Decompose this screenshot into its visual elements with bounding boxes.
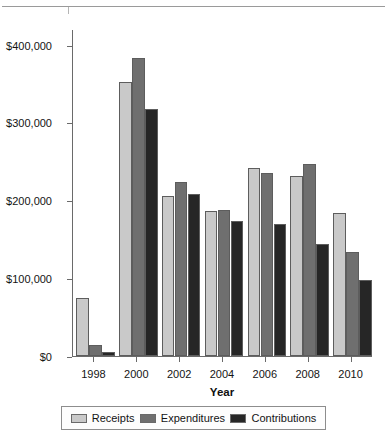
y-axis-tick-label: $200,000 bbox=[0, 196, 52, 207]
bar-receipts-2008 bbox=[290, 176, 303, 356]
y-axis-tick-label: $300,000 bbox=[0, 118, 52, 129]
bar-chart: $0$100,000$200,000$300,000$400,000 19982… bbox=[0, 0, 387, 439]
legend-swatch-icon bbox=[71, 414, 87, 423]
y-axis-tick bbox=[67, 46, 72, 47]
bar-expenditures-2010 bbox=[346, 252, 359, 356]
top-divider-rule bbox=[2, 6, 385, 7]
y-axis-tick bbox=[67, 201, 72, 202]
bar-contributions-2006 bbox=[274, 224, 287, 356]
bar-receipts-2010 bbox=[333, 213, 346, 356]
bar-expenditures-2002 bbox=[175, 182, 188, 356]
bar-receipts-2002 bbox=[162, 196, 175, 356]
bar-contributions-2008 bbox=[316, 244, 329, 356]
plot-area: $0$100,000$200,000$300,000$400,000 19982… bbox=[72, 30, 372, 357]
bar-expenditures-2004 bbox=[218, 210, 231, 356]
legend-label: Contributions bbox=[251, 412, 316, 424]
x-axis-tick bbox=[179, 357, 180, 362]
legend-swatch-icon bbox=[230, 414, 246, 423]
x-axis-tick bbox=[265, 357, 266, 362]
bar-expenditures-1998 bbox=[89, 345, 102, 356]
x-axis-tick bbox=[222, 357, 223, 362]
x-axis-tick-label: 2010 bbox=[323, 368, 379, 380]
bar-contributions-2004 bbox=[231, 221, 244, 356]
y-axis-tick bbox=[67, 357, 72, 358]
bar-contributions-2000 bbox=[145, 109, 158, 356]
bar-expenditures-2008 bbox=[303, 164, 316, 356]
bar-expenditures-2000 bbox=[132, 58, 145, 356]
legend-item-contributions: Contributions bbox=[230, 412, 316, 424]
bar-receipts-2004 bbox=[205, 211, 218, 356]
y-axis-tick bbox=[67, 123, 72, 124]
legend-swatch-icon bbox=[140, 414, 156, 423]
bar-contributions-2010 bbox=[359, 280, 372, 356]
y-axis-tick-label: $0 bbox=[0, 352, 52, 363]
legend-label: Expenditures bbox=[161, 412, 225, 424]
bar-contributions-2002 bbox=[188, 194, 201, 356]
y-axis-tick-label: $100,000 bbox=[0, 274, 52, 285]
bar-receipts-2000 bbox=[119, 82, 132, 356]
legend-label: Receipts bbox=[92, 412, 135, 424]
y-axis-tick bbox=[67, 279, 72, 280]
bar-receipts-2006 bbox=[248, 168, 261, 356]
x-axis-title: Year bbox=[72, 386, 372, 398]
chart-legend: ReceiptsExpendituresContributions bbox=[61, 406, 326, 430]
top-divider-tick bbox=[68, 7, 69, 14]
x-axis-tick bbox=[93, 357, 94, 362]
legend-item-receipts: Receipts bbox=[71, 412, 135, 424]
x-axis-tick bbox=[136, 357, 137, 362]
bar-expenditures-2006 bbox=[261, 173, 274, 356]
bar-receipts-1998 bbox=[76, 298, 89, 356]
bar-contributions-1998 bbox=[102, 352, 115, 356]
y-axis-line bbox=[72, 30, 73, 357]
x-axis-tick bbox=[351, 357, 352, 362]
y-axis-tick-label: $400,000 bbox=[0, 41, 52, 52]
legend-item-expenditures: Expenditures bbox=[140, 412, 225, 424]
x-axis-tick bbox=[308, 357, 309, 362]
